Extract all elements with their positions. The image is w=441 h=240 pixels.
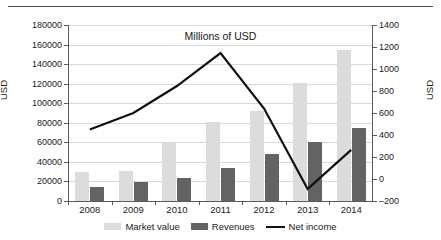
right-axis-tick	[373, 47, 377, 48]
x-tick-label: 2013	[285, 205, 331, 215]
left-axis-tick	[64, 25, 68, 26]
left-tick-label: 40000	[4, 158, 62, 167]
x-axis-line	[68, 201, 373, 202]
x-axis-tick	[155, 201, 156, 205]
x-axis-tick	[199, 201, 200, 205]
left-axis-tick-labels: 0200004000060000800001000001200001400001…	[0, 0, 62, 240]
left-tick-label: 80000	[4, 119, 62, 128]
left-tick-label: 100000	[4, 99, 62, 108]
right-tick-label: 1400	[379, 21, 409, 30]
legend-label-revenues: Revenues	[212, 221, 255, 232]
x-axis-tick	[242, 201, 243, 205]
left-tick-label: 60000	[4, 138, 62, 147]
right-tick-label: –200	[379, 197, 409, 206]
right-axis-tick	[373, 135, 377, 136]
x-tick-label: 2009	[110, 205, 156, 215]
legend-item-revenues: Revenues	[191, 221, 255, 232]
right-axis-tick-labels: –2000200400600800100012001400	[379, 0, 413, 240]
legend-label-market-value: Market value	[125, 221, 179, 232]
right-axis-tick	[373, 201, 377, 202]
chart-container: Millions of USD USD USD 0200004000060000…	[0, 0, 441, 240]
left-tick-label: 180000	[4, 21, 62, 30]
right-tick-label: 1000	[379, 65, 409, 74]
right-tick-label: 1200	[379, 43, 409, 52]
net-income-polyline	[90, 53, 351, 189]
x-axis-tick	[68, 201, 69, 205]
left-axis-tick	[64, 45, 68, 46]
left-axis-tick	[64, 103, 68, 104]
legend-swatch-market-value	[104, 223, 121, 230]
right-axis-title: USD	[424, 80, 435, 100]
legend-item-net-income: Net income	[266, 221, 337, 232]
x-tick-label: 2011	[198, 205, 244, 215]
x-tick-label: 2012	[241, 205, 287, 215]
legend-swatch-net-income	[266, 226, 285, 228]
x-tick-label: 2008	[67, 205, 113, 215]
chart-legend: Market value Revenues Net income	[0, 221, 441, 232]
legend-label-net-income: Net income	[289, 221, 337, 232]
right-axis-tick	[373, 157, 377, 158]
x-axis-tick	[286, 201, 287, 205]
x-tick-label: 2010	[154, 205, 200, 215]
x-axis-tick	[329, 201, 330, 205]
left-tick-label: 0	[4, 197, 62, 206]
left-axis-tick	[64, 84, 68, 85]
right-tick-label: 200	[379, 153, 409, 162]
left-axis-tick	[64, 162, 68, 163]
right-axis-tick	[373, 91, 377, 92]
left-axis-tick	[64, 181, 68, 182]
right-tick-label: 600	[379, 109, 409, 118]
right-tick-label: 400	[379, 131, 409, 140]
left-axis-tick	[64, 64, 68, 65]
right-axis-tick	[373, 25, 377, 26]
right-axis-tick	[373, 69, 377, 70]
x-axis-tick	[112, 201, 113, 205]
legend-item-market-value: Market value	[104, 221, 179, 232]
right-axis-tick	[373, 113, 377, 114]
left-axis-tick	[64, 142, 68, 143]
legend-swatch-revenues	[191, 223, 208, 230]
right-tick-label: 0	[379, 175, 409, 184]
left-tick-label: 160000	[4, 41, 62, 50]
left-axis-line	[68, 25, 69, 201]
x-tick-label: 2014	[328, 205, 374, 215]
left-axis-tick	[64, 123, 68, 124]
left-tick-label: 20000	[4, 177, 62, 186]
right-axis-tick	[373, 179, 377, 180]
left-tick-label: 120000	[4, 80, 62, 89]
left-tick-label: 140000	[4, 60, 62, 69]
top-divider-rule	[8, 6, 433, 7]
net-income-line-series	[68, 25, 373, 201]
right-tick-label: 800	[379, 87, 409, 96]
